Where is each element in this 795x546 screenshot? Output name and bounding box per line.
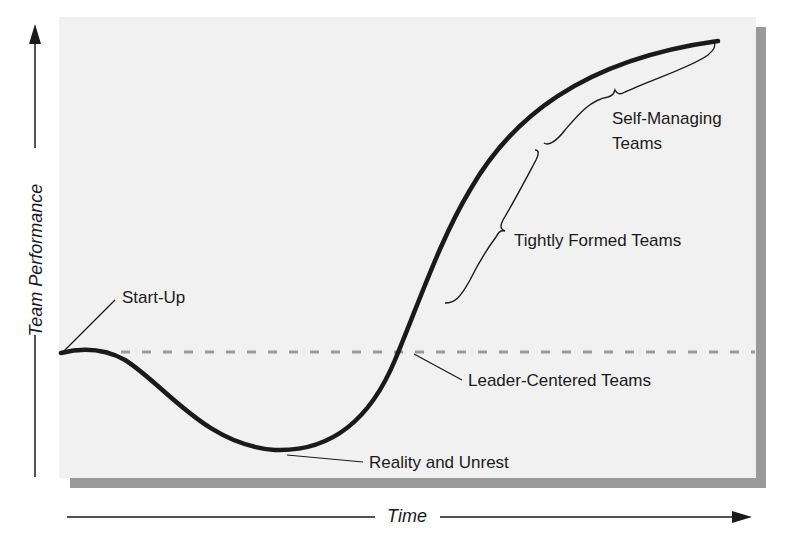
reality-leader-line (287, 455, 363, 462)
self-managing-label-line2: Teams (612, 134, 662, 154)
start-up-leader-line (64, 300, 115, 351)
self-managing-label-line1: Self-Managing (612, 109, 722, 129)
y-axis-label: Team Performance (26, 184, 47, 336)
tightly-formed-brace (445, 150, 538, 303)
leader-centered-label: Leader-Centered Teams (468, 371, 651, 391)
reality-unrest-label: Reality and Unrest (369, 453, 509, 473)
tightly-formed-label: Tightly Formed Teams (514, 231, 681, 251)
x-axis-label: Time (387, 506, 427, 527)
leader-centered-leader-line (414, 354, 462, 380)
start-up-label: Start-Up (122, 288, 185, 308)
